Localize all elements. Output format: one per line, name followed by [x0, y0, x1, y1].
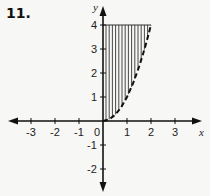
- graph: -3-2-10123-2-11234xy: [0, 0, 210, 196]
- tick-labels: -3-2-10123-2-11234xy: [26, 1, 204, 175]
- x-tick-label: -2: [50, 126, 60, 138]
- x-axis-right-arrow-icon: [192, 118, 202, 125]
- axes: [8, 6, 202, 192]
- y-tick-label: -2: [87, 163, 97, 175]
- y-tick-label: 4: [91, 19, 97, 31]
- boundary-curve: [103, 25, 151, 121]
- x-tick-label: 2: [148, 126, 154, 138]
- y-tick-label: 1: [91, 91, 97, 103]
- y-tick-label: 2: [91, 67, 97, 79]
- x-tick-label: 0: [94, 126, 100, 138]
- y-tick-label: 3: [91, 43, 97, 55]
- shaded-region: [103, 25, 151, 121]
- y-axis-up-arrow-icon: [100, 6, 107, 16]
- y-axis-down-arrow-icon: [100, 182, 107, 192]
- x-tick-label: 3: [172, 126, 178, 138]
- x-tick-label: -3: [26, 126, 36, 138]
- y-tick-label: -1: [87, 139, 97, 151]
- x-tick-label: 1: [124, 126, 130, 138]
- x-axis-left-arrow-icon: [8, 118, 18, 125]
- y-axis-label: y: [92, 1, 98, 13]
- x-tick-label: -1: [74, 126, 84, 138]
- x-axis-label: x: [198, 126, 204, 138]
